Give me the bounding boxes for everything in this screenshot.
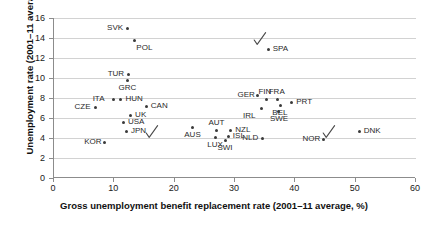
data-point — [126, 79, 129, 82]
data-point — [215, 129, 218, 132]
data-point — [358, 130, 361, 133]
data-point — [94, 106, 97, 109]
check-mark-icon — [251, 30, 269, 48]
data-point-label: DNK — [364, 127, 381, 135]
data-point-label: KOR — [84, 138, 101, 146]
data-point-label: SVK — [107, 24, 123, 32]
gridline — [54, 38, 416, 39]
data-point-label: NOR — [303, 135, 321, 143]
data-point — [229, 129, 232, 132]
data-point — [260, 107, 263, 110]
gridline — [54, 78, 416, 79]
x-tick-label: 20 — [159, 184, 189, 193]
data-point-label: POL — [136, 44, 152, 52]
x-tick-label: 0 — [38, 184, 68, 193]
data-point-label: ITA — [93, 95, 105, 103]
y-tick-label: 16 — [15, 14, 45, 23]
scatter-chart: Unemployment rate (2001–11 average, %) G… — [0, 0, 428, 232]
data-point — [126, 27, 129, 30]
data-point — [103, 141, 106, 144]
data-point — [227, 135, 230, 138]
gridline — [54, 118, 416, 119]
x-tick-label: 50 — [340, 184, 370, 193]
y-tick-label: 6 — [15, 114, 45, 123]
x-tick-mark — [294, 178, 295, 182]
x-tick-mark — [174, 178, 175, 182]
data-point-label: SPA — [273, 45, 288, 53]
x-tick-mark — [355, 178, 356, 182]
x-tick-mark — [113, 178, 114, 182]
data-point — [214, 136, 217, 139]
data-point-label: SWE — [270, 115, 288, 123]
data-point — [122, 121, 125, 124]
data-point-label: TUR — [108, 70, 124, 78]
data-point-label: FRA — [269, 88, 285, 96]
x-tick-label: 40 — [279, 184, 309, 193]
data-point — [145, 105, 148, 108]
data-point-label: CAN — [151, 102, 168, 110]
data-point — [276, 98, 279, 101]
x-tick-mark — [53, 178, 54, 182]
gridline — [54, 158, 416, 159]
x-tick-mark — [415, 178, 416, 182]
data-point — [267, 48, 270, 51]
data-point-label: GRC — [119, 84, 137, 92]
x-tick-label: 10 — [98, 184, 128, 193]
y-tick-label: 0 — [15, 174, 45, 183]
y-tick-label: 14 — [15, 34, 45, 43]
data-point-label: IRL — [243, 112, 255, 120]
data-point-label: SWI — [217, 144, 232, 152]
y-tick-label: 10 — [15, 74, 45, 83]
data-point — [127, 73, 130, 76]
data-point — [290, 101, 293, 104]
data-point-label: JPN — [131, 127, 146, 135]
gridline — [54, 58, 416, 59]
data-point-label: HUN — [125, 95, 142, 103]
x-tick-label: 60 — [400, 184, 428, 193]
data-point-label: AUT — [208, 119, 224, 127]
x-tick-label: 30 — [219, 184, 249, 193]
data-point-label: USA — [128, 118, 144, 126]
y-tick-label: 8 — [15, 94, 45, 103]
data-point-label: NLD — [242, 134, 258, 142]
data-point — [112, 98, 115, 101]
x-axis-title: Gross unemployment benefit replacement r… — [0, 200, 428, 211]
data-point — [191, 126, 194, 129]
data-point — [277, 110, 280, 113]
data-point — [261, 137, 264, 140]
y-tick-label: 12 — [15, 54, 45, 63]
data-point — [125, 130, 128, 133]
data-point — [322, 138, 325, 141]
data-point-label: CZE — [75, 103, 91, 111]
x-tick-mark — [234, 178, 235, 182]
plot-area: SVKPOLTURGRCGERITAHUNCANCZEFINFRAPRTBELI… — [53, 18, 415, 178]
gridline — [54, 18, 416, 19]
data-point-label: GER — [237, 91, 254, 99]
data-point — [279, 104, 282, 107]
data-point-label: PRT — [296, 98, 312, 106]
y-tick-label: 2 — [15, 154, 45, 163]
data-point-label: AUS — [184, 131, 200, 139]
y-tick-label: 4 — [15, 134, 45, 143]
gridline — [54, 98, 416, 99]
